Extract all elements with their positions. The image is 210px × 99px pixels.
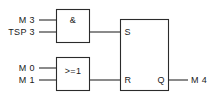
- signal-label-or-input-1: M 0: [19, 63, 35, 73]
- rs-q-pin-label: Q: [158, 75, 165, 85]
- and-gate-symbol: &: [70, 15, 76, 25]
- or-gate-symbol: >=1: [65, 66, 82, 76]
- rs-reset-pin-label: R: [125, 75, 132, 85]
- signal-label-or-input-2: M 1: [19, 75, 35, 85]
- signal-label-output: M 4: [191, 75, 207, 85]
- signal-label-and-input-1: M 3: [19, 15, 35, 25]
- rs-set-pin-label: S: [125, 27, 131, 37]
- function-block-diagram: & M 3 TSP 3 >=1 M 0 M 1 S R Q M 4: [0, 0, 210, 99]
- signal-label-and-input-2: TSP 3: [8, 27, 35, 37]
- logic-diagram-canvas: & M 3 TSP 3 >=1 M 0 M 1 S R Q M 4: [0, 0, 210, 99]
